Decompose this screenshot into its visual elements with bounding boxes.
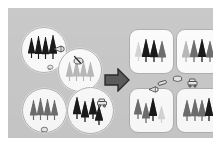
stump-icon (171, 70, 184, 88)
tree-icon (190, 40, 198, 66)
tape-icon (39, 120, 49, 133)
tree-icon (51, 100, 58, 124)
stand-top-left (129, 29, 174, 74)
tree-icon (183, 100, 191, 125)
tree-icon (28, 38, 35, 62)
figure-root (0, 0, 221, 146)
tape-icon (46, 57, 54, 73)
tree-icon (158, 41, 166, 66)
stand-bottom-right (176, 88, 213, 133)
tree-icon (81, 101, 89, 126)
harvester-icon (96, 94, 108, 112)
harvester-icon (186, 74, 199, 92)
plot-top-right (58, 48, 102, 92)
tree-icon (206, 41, 213, 66)
tree-icon (135, 42, 142, 65)
tree-icon (87, 62, 94, 85)
tree-icon (149, 98, 157, 125)
tree-icon (182, 41, 190, 66)
tree-icon (150, 40, 158, 66)
tree-icon (134, 99, 142, 123)
stand-top-right (176, 29, 213, 74)
tree-icon (30, 100, 37, 124)
tree-icon (158, 106, 165, 127)
transformation-arrow (104, 68, 130, 96)
plot-bottom-left (22, 88, 67, 133)
tree-icon (205, 98, 213, 125)
tree-icon (35, 36, 42, 63)
caliper-icon (148, 80, 159, 98)
figure-panel (8, 8, 213, 138)
tree-icon (73, 97, 81, 123)
tree-icon (198, 39, 206, 66)
tree-icon (142, 39, 150, 66)
increment-borer-icon (72, 51, 84, 69)
